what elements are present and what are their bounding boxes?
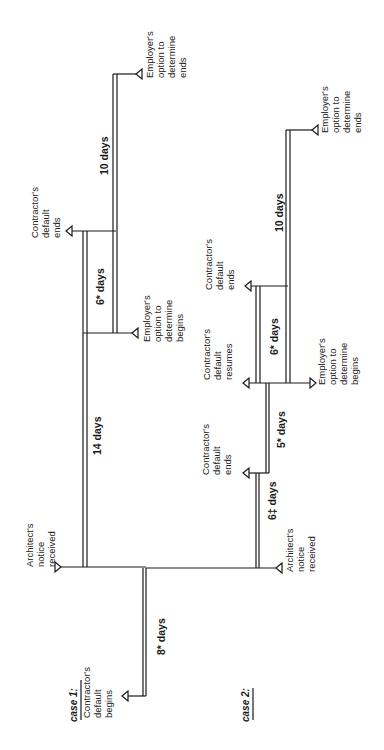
case2-contractor-default-ends-1-label: Contractor's default ends xyxy=(200,424,233,475)
svg-text:determine: determine xyxy=(166,36,177,78)
svg-text:option to: option to xyxy=(327,349,338,385)
case2-contractor-default-resumes-marker xyxy=(243,378,249,388)
case2-architect-notice-label: Architect's notice received xyxy=(284,528,317,572)
svg-text:received: received xyxy=(306,536,317,572)
svg-text:ends: ends xyxy=(225,269,236,290)
case1-contractor-default-ends-label: Contractor's default ends xyxy=(29,187,62,238)
case1-employer-option-begins-label: Employer's option to determine begins xyxy=(141,295,185,342)
svg-text:determine: determine xyxy=(163,300,174,342)
case1-title: case 1: xyxy=(68,688,79,722)
case2-employer-option-ends-label: Employer's option to determine ends xyxy=(319,86,363,133)
case2-employer-option-begins-label: Employer's option to determine begins xyxy=(316,338,360,385)
case1-employer-option-ends-marker xyxy=(136,69,142,79)
svg-text:default: default xyxy=(211,446,222,475)
svg-text:Employer's: Employer's xyxy=(141,295,152,342)
svg-text:default: default xyxy=(212,351,223,380)
svg-text:Employer's: Employer's xyxy=(316,338,327,385)
case2-contractor-default-resumes-label: Contractor's default resumes xyxy=(201,329,234,380)
case1-contractor-default-begins-marker xyxy=(122,691,128,701)
svg-text:begins: begins xyxy=(103,690,114,718)
svg-text:Contractor's: Contractor's xyxy=(200,424,211,475)
case1-14days-label: 14 days xyxy=(91,416,103,455)
svg-text:notice: notice xyxy=(295,547,306,572)
svg-text:Architect's: Architect's xyxy=(24,523,35,567)
case1-6days-label: 6* days xyxy=(94,268,106,305)
svg-text:Contractor's: Contractor's xyxy=(81,667,92,718)
case1-8days-label: 8* days xyxy=(155,618,167,655)
svg-text:Contractor's: Contractor's xyxy=(29,187,40,238)
case2-contractor-default-ends-2-marker xyxy=(245,281,251,291)
svg-text:received: received xyxy=(46,531,57,567)
case2-6dagger-days-label: 6‡ days xyxy=(266,481,278,520)
case1-contractor-default-ends-marker xyxy=(66,226,72,236)
svg-text:option to: option to xyxy=(155,42,166,78)
case1-10days-label: 10 days xyxy=(98,136,110,175)
svg-text:Architect's: Architect's xyxy=(284,528,295,572)
timeline-diagram: case 1: 8* days 14 days 6* days 10 days xyxy=(0,0,384,750)
case2-10days-label: 10 days xyxy=(273,193,285,232)
svg-text:determine: determine xyxy=(341,91,352,133)
case1-employer-option-begins-marker xyxy=(132,328,138,338)
case2-title: case 2: xyxy=(240,688,251,722)
svg-text:option to: option to xyxy=(330,97,341,133)
svg-text:Employer's: Employer's xyxy=(319,86,330,133)
svg-text:default: default xyxy=(40,209,51,238)
svg-text:ends: ends xyxy=(222,454,233,475)
case2-group: case 2: 6‡ days 5* days 6* days 10 da xyxy=(146,86,363,722)
svg-text:Employer's: Employer's xyxy=(144,31,155,78)
svg-text:determine: determine xyxy=(338,343,349,385)
svg-text:Contractor's: Contractor's xyxy=(201,329,212,380)
case1-employer-option-ends-label: Employer's option to determine ends xyxy=(144,31,188,78)
svg-text:Contractor's: Contractor's xyxy=(203,239,214,290)
svg-text:ends: ends xyxy=(352,112,363,133)
svg-text:ends: ends xyxy=(51,217,62,238)
case1-contractor-default-begins-label: Contractor's default begins xyxy=(81,667,114,718)
svg-text:notice: notice xyxy=(35,542,46,567)
svg-text:resumes: resumes xyxy=(223,343,234,380)
svg-text:begins: begins xyxy=(349,357,360,385)
case1-architect-notice-label: Architect's notice received xyxy=(24,523,57,567)
svg-text:option to: option to xyxy=(152,306,163,342)
case2-contractor-default-ends-1-marker xyxy=(243,468,249,478)
case2-6days-label: 6* days xyxy=(268,318,280,355)
svg-text:ends: ends xyxy=(177,57,188,78)
case2-contractor-default-ends-2-label: Contractor's default ends xyxy=(203,239,236,290)
case2-5days-label: 5* days xyxy=(275,411,287,448)
case2-architect-notice-marker xyxy=(276,563,282,573)
svg-text:begins: begins xyxy=(174,314,185,342)
svg-text:default: default xyxy=(214,261,225,290)
svg-text:default: default xyxy=(92,689,103,718)
case1-group: case 1: 8* days 14 days 6* days 10 days xyxy=(24,31,188,722)
case2-employer-option-ends-marker xyxy=(312,125,318,135)
